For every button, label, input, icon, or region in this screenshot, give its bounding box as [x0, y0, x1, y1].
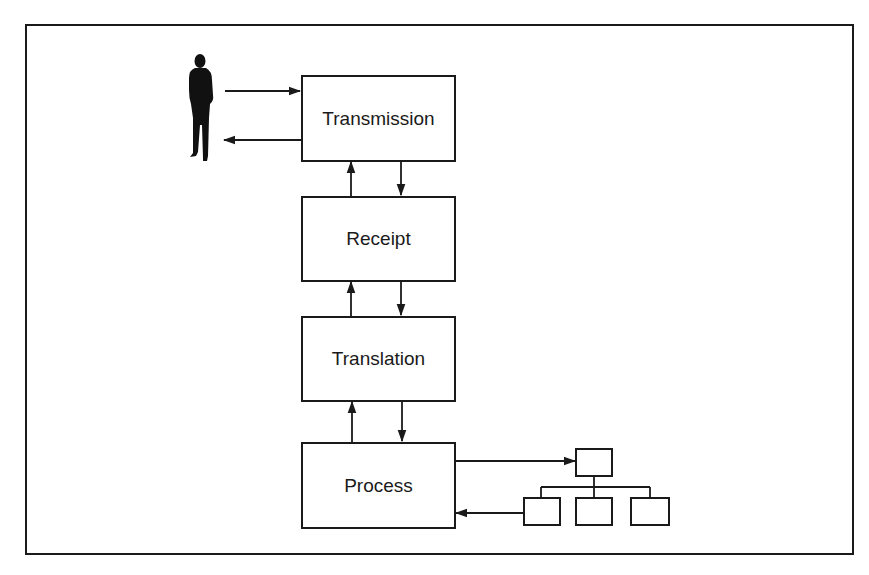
stage-label: Receipt [346, 228, 410, 250]
person-silhouette-icon [189, 54, 213, 161]
hierarchy-root-node [575, 448, 613, 477]
hierarchy-child-node-1 [523, 497, 561, 526]
stage-transmission: Transmission [301, 75, 456, 162]
stage-process: Process [301, 442, 456, 529]
stage-label: Translation [332, 348, 425, 370]
stage-translation: Translation [301, 316, 456, 402]
hierarchy-child-node-2 [575, 497, 613, 526]
diagram-canvas: Transmission Receipt Translation Process [0, 0, 869, 575]
stage-receipt: Receipt [301, 196, 456, 282]
hierarchy-child-node-3 [630, 497, 670, 526]
stage-label: Process [344, 475, 413, 497]
stage-label: Transmission [322, 108, 434, 130]
